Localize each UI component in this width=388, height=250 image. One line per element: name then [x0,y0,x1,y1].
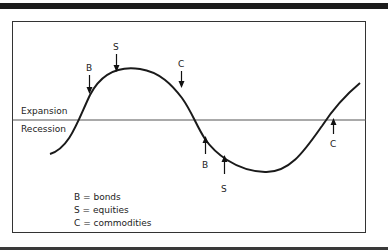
marker-b-bottom: B [202,160,208,170]
arrow-b-bottom [203,136,209,154]
legend-bonds: B = bonds [74,192,121,202]
legend-equities: S = equities [74,205,129,215]
marker-c-top: C [178,59,184,69]
legend-commodities: C = commodities [74,218,152,228]
expansion-label: Expansion [21,106,67,116]
marker-b-top: B [86,63,92,73]
arrow-c-top [179,71,185,88]
business-cycle-diagram: B S C B S C Expansion Recession B = bond… [0,0,388,250]
marker-s-top: S [113,42,119,52]
marker-s-bottom: S [221,184,227,194]
recession-label: Recession [21,124,66,134]
marker-c-bottom: C [330,139,336,149]
